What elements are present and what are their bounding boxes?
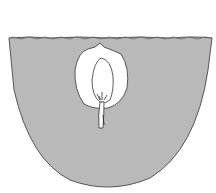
embryo: [92, 58, 113, 103]
seed-germination-diagram: [0, 0, 216, 193]
